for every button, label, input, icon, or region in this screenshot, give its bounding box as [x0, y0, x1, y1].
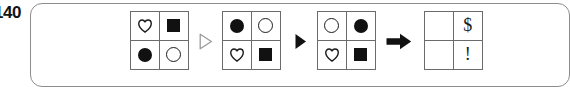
dollar-sign-glyph: $	[463, 16, 472, 34]
filled-square-icon	[259, 48, 272, 61]
filled-square-icon	[167, 19, 180, 32]
filled-circle-icon	[138, 48, 152, 62]
grid-b-cell-bottom-left[interactable]	[223, 41, 252, 70]
grid-d-cell-bottom-right[interactable]: !	[454, 41, 483, 70]
grid-c-cell-bottom-right[interactable]	[347, 41, 376, 70]
grid-a-cell-bottom-right[interactable]	[160, 41, 189, 70]
exclamation-mark-glyph: !	[465, 45, 471, 63]
heart-icon	[137, 18, 153, 34]
grid-d-cell-bottom-left[interactable]	[425, 41, 454, 70]
grid-b-cell-top-left[interactable]	[223, 12, 252, 41]
heart-icon	[324, 47, 340, 63]
grid-a-cell-bottom-left[interactable]	[131, 41, 160, 70]
grid-d-cell-top-left[interactable]	[425, 12, 454, 41]
hollow-circle-icon	[166, 47, 181, 62]
hollow-triangle-icon	[197, 32, 215, 50]
grid-c-cell-top-left[interactable]	[318, 12, 347, 41]
grid-c-cell-top-right[interactable]	[347, 12, 376, 41]
grid-b-cell-bottom-right[interactable]	[252, 41, 281, 70]
result-grid-b[interactable]	[222, 11, 281, 70]
right-arrow-icon	[385, 32, 413, 50]
hollow-circle-icon	[258, 18, 273, 33]
source-grid-c[interactable]	[317, 11, 376, 70]
answer-grid-d[interactable]: $ !	[424, 11, 483, 70]
grid-a-cell-top-left[interactable]	[131, 12, 160, 41]
grid-d-cell-top-right[interactable]: $	[454, 12, 483, 41]
solid-triangle-icon	[291, 32, 309, 50]
filled-circle-icon	[230, 19, 244, 33]
grid-c-cell-bottom-left[interactable]	[318, 41, 347, 70]
hollow-circle-icon	[324, 18, 339, 33]
source-grid-a[interactable]	[130, 11, 189, 70]
heart-icon	[229, 47, 245, 63]
filled-circle-icon	[354, 19, 368, 33]
grid-b-cell-top-right[interactable]	[252, 12, 281, 41]
filled-square-icon	[354, 48, 367, 61]
grid-a-cell-top-right[interactable]	[160, 12, 189, 41]
